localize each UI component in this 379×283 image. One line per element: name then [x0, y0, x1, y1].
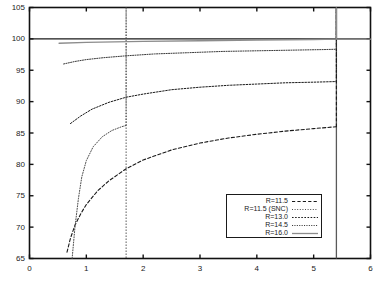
legend-line-sample	[292, 230, 318, 237]
y-tick-label: 70	[0, 223, 25, 232]
x-tick-label: 3	[190, 264, 210, 273]
x-tick-label: 6	[361, 264, 379, 273]
data-series-group	[59, 8, 370, 259]
legend-label: R=13.0	[265, 213, 288, 221]
x-tick-label: 4	[247, 264, 267, 273]
legend-line-sample	[292, 198, 318, 205]
legend-entry: R=11.5 (SNC)	[229, 205, 318, 213]
legend-line-sample	[292, 222, 318, 229]
y-tick-label: 80	[0, 160, 25, 169]
legend-line-sample	[292, 206, 318, 213]
x-tick-label: 1	[76, 264, 96, 273]
series-line-2	[70, 82, 336, 124]
chart-figure: 65707580859095100105 0123456 R=11.5R=11.…	[0, 0, 379, 283]
legend-entry: R=14.5	[229, 221, 318, 229]
series-line-4	[59, 39, 370, 43]
legend-entry: R=11.5	[229, 197, 318, 205]
legend-entry: R=16.0	[229, 229, 318, 237]
legend-line-sample	[292, 214, 318, 221]
series-line-1	[72, 125, 126, 258]
legend-label: R=14.5	[265, 221, 288, 229]
legend-label: R=11.5	[266, 197, 288, 205]
y-tick-label: 90	[0, 97, 25, 106]
y-tick-label: 85	[0, 129, 25, 138]
y-tick-label: 95	[0, 66, 25, 75]
chart-legend: R=11.5R=11.5 (SNC)R=13.0R=14.5R=16.0	[226, 194, 322, 238]
y-tick-label: 105	[0, 3, 25, 12]
x-tick-label: 0	[20, 264, 40, 273]
plot-canvas	[0, 0, 379, 283]
y-tick-label: 75	[0, 191, 25, 200]
legend-entry: R=13.0	[229, 213, 318, 221]
legend-label: R=16.0	[265, 229, 288, 237]
y-tick-label: 100	[0, 34, 25, 43]
legend-label: R=11.5 (SNC)	[244, 205, 288, 213]
y-tick-label: 65	[0, 254, 25, 263]
x-tick-label: 2	[133, 264, 153, 273]
x-tick-label: 5	[304, 264, 324, 273]
series-line-3	[64, 49, 337, 64]
